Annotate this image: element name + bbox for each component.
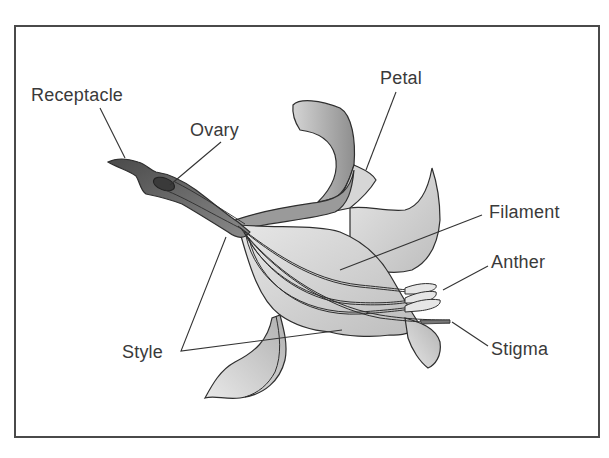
- label-petal: Petal: [380, 69, 422, 87]
- anthers: [405, 284, 440, 312]
- leader-receptacle: [100, 108, 125, 158]
- label-ovary: Ovary: [190, 121, 239, 139]
- leader-ovary: [170, 142, 221, 185]
- leader-stigma: [452, 322, 488, 346]
- leader-petal: [366, 92, 396, 170]
- petal-upper: [293, 101, 376, 212]
- label-receptacle: Receptacle: [31, 86, 123, 104]
- label-filament: Filament: [489, 203, 560, 221]
- label-stigma: Stigma: [491, 340, 548, 358]
- petal-lower-left: [205, 315, 286, 398]
- label-anther: Anther: [491, 253, 545, 271]
- petal-lower-right: [405, 318, 440, 368]
- leader-anther: [443, 266, 488, 290]
- label-style: Style: [122, 343, 163, 361]
- stigma-shape: [420, 320, 450, 324]
- receptacle-stem: [108, 159, 250, 237]
- flower-illustration: [0, 0, 609, 458]
